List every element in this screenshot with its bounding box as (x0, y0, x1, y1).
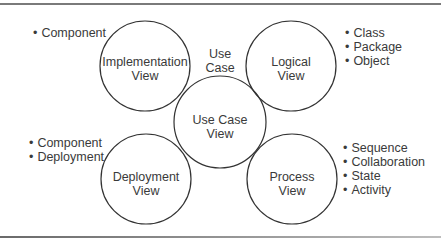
bullet-item: Component (29, 136, 104, 150)
bottom-rule (0, 236, 441, 238)
bullet-item: Collaboration (343, 155, 425, 169)
implementation-view-label-line2: View (100, 69, 190, 83)
deployment-bullets: Component Deployment (29, 136, 104, 164)
bullet-item: Class (345, 26, 402, 40)
bullet-item: Package (345, 40, 402, 54)
logical-bullets: Class Package Object (345, 26, 402, 68)
implementation-view-label: Implementation View (100, 55, 190, 83)
deployment-view-label-line2: View (101, 184, 191, 198)
use-case-caption: Use Case (195, 47, 245, 75)
deployment-view-label-line1: Deployment (101, 170, 191, 184)
bullet-item: Component (33, 26, 106, 40)
use-case-view-label: Use Case View (175, 113, 265, 141)
bullet-item: Object (345, 54, 402, 68)
use-case-view-label-line2: View (175, 127, 265, 141)
logical-view-label: Logical View (246, 55, 336, 83)
use-case-view-label-line1: Use Case (175, 113, 265, 127)
bullet-item: Activity (343, 183, 425, 197)
deployment-view-label: Deployment View (101, 170, 191, 198)
implementation-bullets: Component (33, 26, 106, 40)
logical-view-label-line2: View (246, 69, 336, 83)
bullet-item: Sequence (343, 141, 425, 155)
process-view-label-line2: View (247, 184, 337, 198)
process-bullets: Sequence Collaboration State Activity (343, 141, 425, 197)
process-view-label: Process View (247, 170, 337, 198)
implementation-view-label-line1: Implementation (100, 55, 190, 69)
bullet-item: Deployment (29, 150, 104, 164)
process-view-label-line1: Process (247, 170, 337, 184)
logical-view-label-line1: Logical (246, 55, 336, 69)
use-case-caption-line1: Use (195, 47, 245, 61)
bullet-item: State (343, 169, 425, 183)
use-case-caption-line2: Case (195, 61, 245, 75)
